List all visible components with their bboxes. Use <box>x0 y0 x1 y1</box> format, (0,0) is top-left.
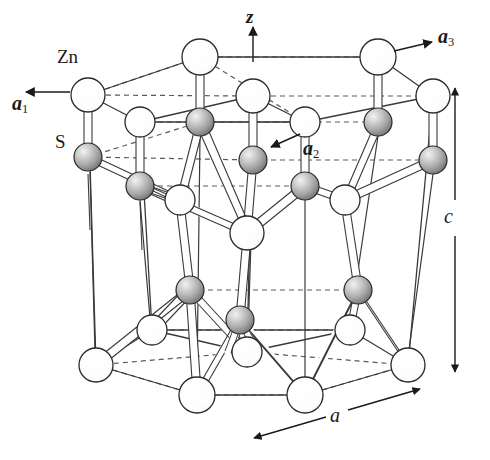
a3-axis-label-sub: 3 <box>448 35 454 49</box>
zn-atom <box>290 107 320 137</box>
zn-atom <box>125 107 155 137</box>
zn-atom <box>232 337 262 367</box>
zn-atom <box>391 348 425 382</box>
s-label: S <box>55 132 66 151</box>
zn-atom <box>79 348 113 382</box>
a3-axis-label-base: a <box>438 25 448 47</box>
a1-axis-label: a1 <box>12 93 28 116</box>
s-atom <box>226 306 254 334</box>
s-atom <box>364 108 392 136</box>
a2-axis-label-base: a <box>303 137 313 159</box>
a1-axis-label-base: a <box>12 92 22 114</box>
a1-axis-label-sub: 1 <box>22 102 28 116</box>
a-dimension-arrow-right <box>348 389 420 410</box>
a-dimension-arrow-left <box>254 417 326 438</box>
c-dimension-label: c <box>444 206 453 226</box>
a-dimension-label: a <box>330 405 340 425</box>
s-atom <box>126 172 154 200</box>
a2-axis-label-sub: 2 <box>313 147 319 161</box>
zn-atom <box>236 79 270 113</box>
z-axis-label: z <box>246 7 253 26</box>
s-atom <box>291 172 319 200</box>
zn-atom <box>330 185 360 215</box>
zn-atom <box>71 78 105 112</box>
zn-atom <box>335 315 365 345</box>
zn-label: Zn <box>57 47 78 66</box>
zn-atom <box>137 315 167 345</box>
a3-axis-arrow <box>394 42 432 51</box>
zn-atom <box>230 216 264 250</box>
a3-axis-label: a3 <box>438 26 454 49</box>
s-atom <box>419 146 447 174</box>
zn-atom <box>416 79 450 113</box>
zn-atom <box>360 39 396 75</box>
s-atom <box>344 276 372 304</box>
a2-axis-label: a2 <box>303 138 319 161</box>
a2-axis-arrow <box>271 134 300 147</box>
zn-atom <box>287 377 323 413</box>
s-atom <box>74 143 102 171</box>
s-atom <box>239 146 267 174</box>
s-atom <box>176 276 204 304</box>
wurtzite-unit-cell-diagram <box>0 0 490 460</box>
zn-atom <box>182 39 218 75</box>
zn-atom <box>165 185 195 215</box>
zn-atom <box>179 377 215 413</box>
crystal-structure-figure: Zn S z a1 a2 a3 c a <box>0 0 490 460</box>
s-atom <box>186 108 214 136</box>
